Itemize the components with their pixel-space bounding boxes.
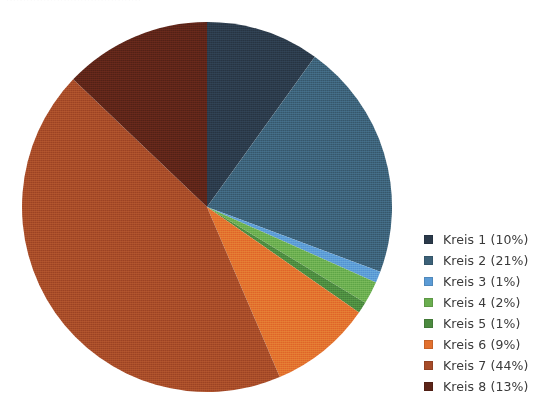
legend-item-8[interactable]: Kreis 8 (13%) bbox=[424, 376, 553, 397]
legend-swatch-icon-6 bbox=[424, 340, 433, 349]
pie-chart-svg bbox=[0, 0, 420, 401]
chart-legend: Kreis 1 (10%)Kreis 2 (21%)Kreis 3 (1%)Kr… bbox=[424, 229, 553, 397]
legend-item-2[interactable]: Kreis 2 (21%) bbox=[424, 250, 553, 271]
legend-item-5[interactable]: Kreis 5 (1%) bbox=[424, 313, 553, 334]
legend-item-label: Kreis 1 (10%) bbox=[443, 229, 528, 250]
legend-item-label: Kreis 5 (1%) bbox=[443, 313, 520, 334]
legend-item-1[interactable]: Kreis 1 (10%) bbox=[424, 229, 553, 250]
legend-item-4[interactable]: Kreis 4 (2%) bbox=[424, 292, 553, 313]
legend-item-7[interactable]: Kreis 7 (44%) bbox=[424, 355, 553, 376]
legend-swatch-icon-3 bbox=[424, 277, 433, 286]
legend-swatch-icon-1 bbox=[424, 235, 433, 244]
legend-item-label: Kreis 6 (9%) bbox=[443, 334, 520, 355]
legend-swatch-icon-8 bbox=[424, 382, 433, 391]
legend-item-label: Kreis 2 (21%) bbox=[443, 250, 528, 271]
legend-swatch-icon-4 bbox=[424, 298, 433, 307]
pie-slice-group bbox=[22, 22, 392, 392]
legend-swatch-icon-2 bbox=[424, 256, 433, 265]
legend-item-label: Kreis 7 (44%) bbox=[443, 355, 528, 376]
legend-swatch-icon-5 bbox=[424, 319, 433, 328]
legend-item-label: Kreis 8 (13%) bbox=[443, 376, 528, 397]
legend-item-3[interactable]: Kreis 3 (1%) bbox=[424, 271, 553, 292]
legend-item-label: Kreis 4 (2%) bbox=[443, 292, 520, 313]
legend-item-label: Kreis 3 (1%) bbox=[443, 271, 520, 292]
chart-page: ········································… bbox=[0, 0, 553, 401]
pie-chart-area bbox=[0, 0, 420, 401]
legend-swatch-icon-7 bbox=[424, 361, 433, 370]
legend-item-6[interactable]: Kreis 6 (9%) bbox=[424, 334, 553, 355]
